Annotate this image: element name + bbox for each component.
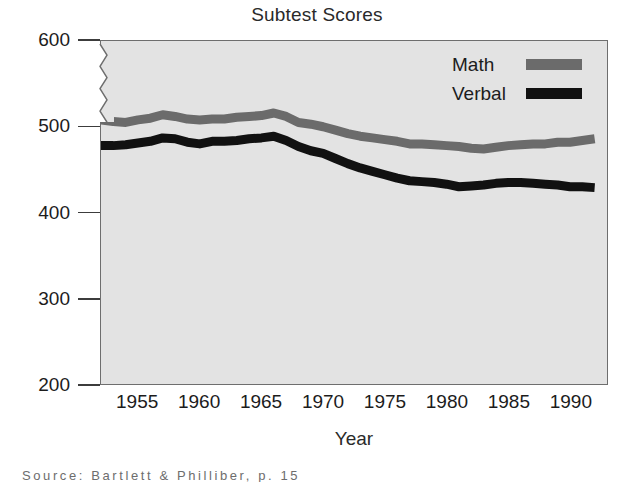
y-tick-label: 300 bbox=[8, 289, 70, 308]
series-line-math bbox=[101, 113, 595, 149]
y-tick-label: 500 bbox=[8, 116, 70, 135]
x-tick-label: 1960 bbox=[164, 392, 234, 413]
x-axis-title: Year bbox=[100, 428, 608, 450]
chart-legend: Math Verbal bbox=[452, 50, 592, 108]
y-tick-mark bbox=[78, 212, 100, 214]
x-tick-label: 1990 bbox=[536, 392, 606, 413]
chart-figure: Subtest Scores 200300400500600 Math Verb… bbox=[0, 0, 634, 482]
y-tick-mark bbox=[78, 39, 100, 41]
legend-label-math: Math bbox=[452, 55, 518, 74]
legend-swatch-verbal bbox=[526, 88, 582, 99]
x-tick-label: 1975 bbox=[350, 392, 420, 413]
source-caption: Source: Bartlett & Philliber, p. 15 bbox=[22, 468, 522, 482]
x-tick-label: 1955 bbox=[102, 392, 172, 413]
x-tick-label: 1980 bbox=[412, 392, 482, 413]
y-tick-label: 400 bbox=[8, 203, 70, 222]
y-axis-break-icon bbox=[92, 44, 114, 122]
x-tick-label: 1985 bbox=[474, 392, 544, 413]
legend-label-verbal: Verbal bbox=[452, 84, 518, 103]
x-axis-labels: 19551960196519701975198019851990 bbox=[0, 392, 634, 418]
x-tick-label: 1970 bbox=[288, 392, 358, 413]
legend-item-math: Math bbox=[452, 50, 592, 79]
x-tick-label: 1965 bbox=[226, 392, 296, 413]
y-tick-label: 600 bbox=[8, 30, 70, 49]
y-tick-mark bbox=[78, 126, 100, 128]
legend-swatch-math bbox=[526, 59, 582, 70]
y-tick-mark bbox=[78, 384, 100, 386]
legend-item-verbal: Verbal bbox=[452, 79, 592, 108]
y-tick-mark bbox=[78, 298, 100, 300]
